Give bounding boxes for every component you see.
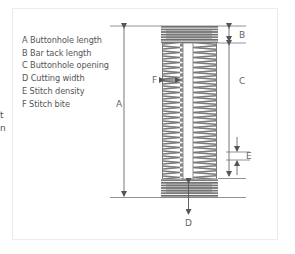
dimension-e: E bbox=[237, 137, 252, 175]
stitch-block bbox=[161, 26, 218, 198]
label-c: C bbox=[239, 76, 245, 86]
label-b: B bbox=[239, 30, 245, 40]
label-a: A bbox=[116, 99, 123, 109]
dimension-b: B bbox=[229, 28, 245, 41]
label-f: F bbox=[152, 75, 157, 85]
label-d: D bbox=[185, 218, 192, 228]
dimension-c: C bbox=[229, 45, 245, 176]
label-e: E bbox=[246, 151, 252, 161]
buttonhole-diagram: A B C E F D bbox=[0, 0, 295, 254]
dimension-a: A bbox=[116, 28, 124, 196]
